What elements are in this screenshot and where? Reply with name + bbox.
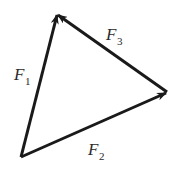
label-f2: F 2	[87, 140, 105, 162]
label-f1: F 1	[13, 65, 31, 87]
label-f2-symbol: F	[87, 140, 99, 159]
label-f3: F 3	[105, 25, 123, 47]
label-f1-subscript: 1	[25, 75, 31, 87]
label-f1-symbol: F	[13, 65, 25, 84]
label-f3-subscript: 3	[117, 35, 123, 47]
label-f2-subscript: 2	[99, 150, 105, 162]
label-f3-symbol: F	[105, 25, 117, 44]
force-triangle-diagram: F 1 F 2 F 3	[0, 0, 184, 179]
